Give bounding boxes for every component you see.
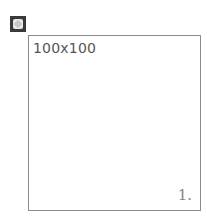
- size-label: 100x100: [33, 40, 96, 56]
- image-placeholder: 100x100 1.: [28, 35, 201, 211]
- corner-label: 1.: [178, 186, 192, 204]
- broken-image-icon: [10, 16, 26, 32]
